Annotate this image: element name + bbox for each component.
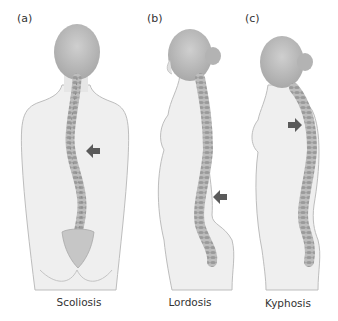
hair-bun: [205, 47, 221, 65]
caption-scoliosis: Scoliosis: [39, 296, 119, 308]
hair-bun: [297, 53, 313, 71]
kyphosis-figure: [252, 36, 320, 290]
head: [54, 24, 100, 80]
arrow-icon: [213, 190, 227, 204]
panel-label-b: (b): [147, 12, 163, 25]
caption-lordosis: Lordosis: [150, 296, 230, 308]
panel-label-c: (c): [245, 12, 260, 25]
lordosis-figure: [158, 29, 233, 290]
scoliosis-figure: [21, 24, 128, 290]
panel-label-a: (a): [17, 12, 32, 25]
spine-illustration: [0, 0, 338, 321]
body-outline: [158, 75, 233, 290]
caption-kyphosis: Kyphosis: [248, 297, 328, 309]
